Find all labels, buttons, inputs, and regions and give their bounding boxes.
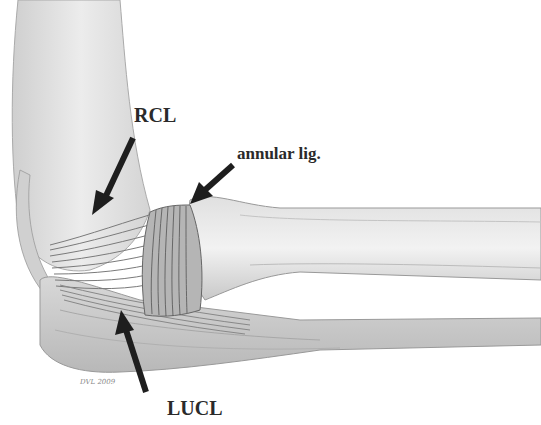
- annular-ligament: [142, 205, 202, 316]
- radius-bone: [188, 197, 541, 300]
- elbow-illustration: RCL annular lig. LUCL DVL 2009: [0, 0, 541, 425]
- lucl-label: LUCL: [167, 398, 223, 418]
- rcl-label: RCL: [134, 105, 176, 125]
- annular-ligament-label: annular lig.: [237, 145, 321, 162]
- ulna-bone: [40, 277, 541, 373]
- artist-signature: DVL 2009: [80, 378, 115, 386]
